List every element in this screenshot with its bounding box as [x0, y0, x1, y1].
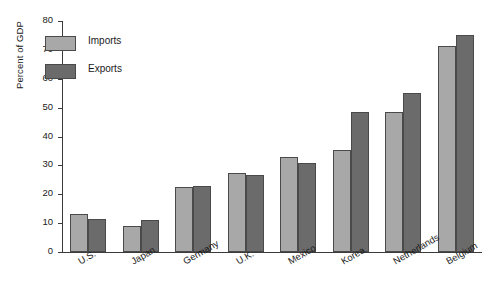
bar-imports	[438, 46, 456, 252]
y-axis-title: Percent of GDP	[14, 0, 25, 115]
bar-imports	[228, 173, 246, 252]
bar-exports	[403, 93, 421, 252]
legend-swatch-imports	[45, 36, 76, 51]
y-tick-mark	[58, 252, 62, 253]
legend-item: Imports	[45, 34, 175, 62]
y-tick-label: 10	[42, 216, 53, 227]
legend-item: Exports	[45, 62, 175, 90]
bar-exports	[456, 35, 474, 252]
legend-swatch-exports	[45, 64, 76, 79]
bar-imports	[333, 150, 351, 253]
bar-exports	[246, 175, 264, 252]
bar-group	[430, 21, 483, 252]
bar-group	[377, 21, 430, 252]
y-tick-label: 80	[42, 14, 53, 25]
y-tick-label: 50	[42, 101, 53, 112]
bar-imports	[280, 157, 298, 252]
y-tick-label: 30	[42, 158, 53, 169]
chart-figure: Percent of GDP 01020304050607080 U.S.Jap…	[0, 0, 498, 300]
legend-label: Imports	[88, 35, 121, 46]
y-tick-label: 0	[48, 245, 53, 256]
chart-legend: ImportsExports	[45, 34, 175, 90]
bar-exports	[298, 163, 316, 253]
bar-imports	[70, 214, 88, 252]
bar-group	[272, 21, 325, 252]
legend-label: Exports	[88, 63, 122, 74]
bar-imports	[175, 187, 193, 252]
y-tick-label: 20	[42, 187, 53, 198]
bar-imports	[123, 226, 141, 252]
bar-imports	[385, 112, 403, 252]
bar-exports	[351, 112, 369, 252]
bar-group	[325, 21, 378, 252]
bar-group	[220, 21, 273, 252]
y-tick-label: 40	[42, 130, 53, 141]
